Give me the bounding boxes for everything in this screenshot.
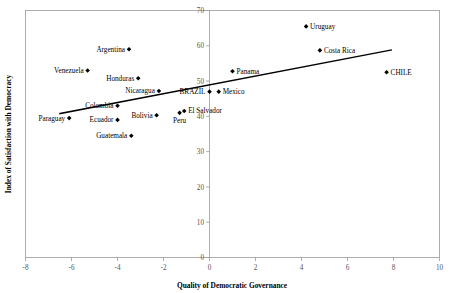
y-tick-label: 10 xyxy=(197,219,205,227)
y-tick-label: 70 xyxy=(197,7,205,15)
point-label: Panama xyxy=(237,68,261,76)
x-axis-title: Quality of Democratic Governance xyxy=(177,281,288,290)
x-tick-label: 4 xyxy=(300,264,304,272)
y-tick-label: 60 xyxy=(197,42,205,50)
y-axis-title: Index of Satisfaction with Democracy xyxy=(4,75,13,194)
x-tick-label: 2 xyxy=(254,264,258,272)
point-label: Argentina xyxy=(96,46,125,54)
point-label: El Salvador xyxy=(188,107,222,115)
x-tick-label: 10 xyxy=(436,264,444,272)
point-label: Venezuela xyxy=(54,67,84,75)
point-label: Guatemala xyxy=(96,132,128,140)
x-tick-label: -4 xyxy=(115,264,121,272)
x-tick-label: -8 xyxy=(23,264,29,272)
chart-canvas: -8-6-4-20246810 010203040506070 UruguayC… xyxy=(0,0,456,293)
point-label: Honduras xyxy=(106,75,134,83)
point-label: CHILE xyxy=(391,69,413,77)
point-label: Colombia xyxy=(85,102,114,110)
point-label: Mexico xyxy=(223,88,245,96)
y-tick-label: 0 xyxy=(200,254,204,262)
y-tick-label: 30 xyxy=(197,148,205,156)
point-label: Ecuador xyxy=(90,116,115,124)
data-point: El Salvador xyxy=(182,107,223,115)
point-label: Paraguay xyxy=(38,115,65,123)
point-label: Costa Rica xyxy=(324,47,356,55)
y-tick-label: 50 xyxy=(197,78,205,86)
point-label: Uruguay xyxy=(310,23,336,31)
data-point: Costa Rica xyxy=(318,47,356,55)
chart-background xyxy=(0,0,456,293)
point-label: Bolivia xyxy=(131,112,153,120)
point-label: Peru xyxy=(173,117,187,125)
point-label: BRAZIL xyxy=(180,88,206,96)
x-tick-label: 8 xyxy=(392,264,396,272)
y-tick-label: 20 xyxy=(197,184,205,192)
x-tick-label: -6 xyxy=(69,264,75,272)
point-label: Nicaragua xyxy=(125,87,155,95)
x-tick-label: 0 xyxy=(208,264,212,272)
scatter-chart: -8-6-4-20246810 010203040506070 UruguayC… xyxy=(0,0,456,293)
x-tick-label: 6 xyxy=(346,264,350,272)
x-tick-label: -2 xyxy=(161,264,167,272)
